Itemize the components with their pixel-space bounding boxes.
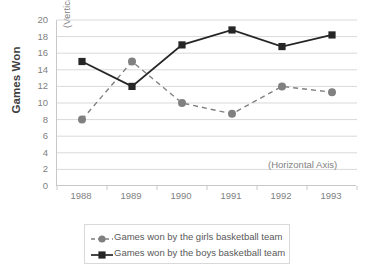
data-point-marker <box>128 83 135 90</box>
series-line-2 <box>82 30 332 86</box>
x-axis-tick-label: 1991 <box>208 190 254 201</box>
x-axis-tick-label: 1992 <box>258 190 304 201</box>
legend-item-label: Games won by the boys basketball team <box>114 247 285 259</box>
y-axis-tick-label: 2 <box>26 164 48 174</box>
y-axis-tick-label: 4 <box>26 148 48 158</box>
line-chart: Games Won 20181614121086420 (Vertical Ax… <box>0 0 376 269</box>
data-point-marker <box>78 116 86 124</box>
y-axis-tick-label: 10 <box>26 98 48 108</box>
data-point-marker <box>78 58 85 65</box>
x-axis-tick-label: 1993 <box>308 190 354 201</box>
data-point-marker <box>328 31 335 38</box>
data-point-marker <box>178 41 185 48</box>
legend-item-label: Games won by the girls basketball team <box>114 231 282 243</box>
x-axis-tick-labels: 198819891990199119921993 <box>56 190 356 206</box>
legend-square-marker-icon <box>90 247 114 259</box>
legend-item[interactable]: Games won by the boys basketball team <box>90 245 284 261</box>
horizontal-axis-annotation: (Horizontal Axis) <box>268 159 337 170</box>
legend-item[interactable]: Games won by the girls basketball team <box>90 229 284 245</box>
y-axis-tick-label: 20 <box>26 15 48 25</box>
data-point-marker <box>228 110 236 118</box>
data-point-marker <box>278 43 285 50</box>
x-axis-tick-label: 1988 <box>58 190 104 201</box>
y-axis-tick-label: 18 <box>26 32 48 42</box>
y-axis-tick-labels: 20181614121086420 <box>24 0 48 269</box>
data-point-marker <box>128 58 136 66</box>
data-point-marker <box>228 26 235 33</box>
data-point-marker <box>178 99 186 107</box>
x-axis-tick-label: 1990 <box>158 190 204 201</box>
data-point-marker <box>278 82 286 90</box>
legend-circle-marker-icon <box>90 231 114 243</box>
y-axis-tick-label: 8 <box>26 115 48 125</box>
y-axis-tick-label: 16 <box>26 48 48 58</box>
y-axis-tick-label: 12 <box>26 81 48 91</box>
y-axis-tick-label: 14 <box>26 65 48 75</box>
data-point-marker <box>328 88 336 96</box>
chart-legend: Games won by the girls basketball teamGa… <box>84 224 290 264</box>
y-axis-tick-label: 0 <box>26 181 48 191</box>
y-axis-tick-label: 6 <box>26 131 48 141</box>
y-axis-title: Games Won <box>10 40 22 120</box>
x-axis-tick-label: 1989 <box>108 190 154 201</box>
